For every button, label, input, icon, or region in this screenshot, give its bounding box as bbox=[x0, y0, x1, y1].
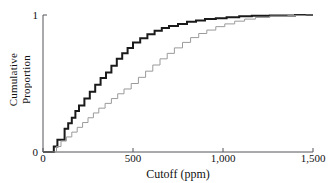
data-series-group bbox=[43, 15, 313, 152]
x-tick-label-1500: 1,500 bbox=[301, 152, 326, 164]
x-tick-label-1000: 1,000 bbox=[211, 152, 236, 164]
x-axis-ticks bbox=[43, 148, 313, 152]
x-tick-label-0: 0 bbox=[40, 152, 46, 164]
series-light-step-curve bbox=[43, 15, 313, 152]
y-axis-ticks bbox=[43, 15, 47, 152]
x-tick-label-500: 500 bbox=[125, 152, 142, 164]
axis-lines bbox=[43, 15, 313, 152]
plot-area bbox=[0, 0, 335, 183]
x-axis-title: Cutoff (ppm) bbox=[146, 167, 209, 182]
y-axis-title-line-1: Cumulative bbox=[7, 53, 19, 106]
y-tick-label-0: 0 bbox=[33, 146, 39, 158]
series-dark-step-curve bbox=[43, 15, 313, 152]
cumulative-proportion-chart: 1 0 0 500 1,000 1,500 Cutoff (ppm) Cumul… bbox=[0, 0, 335, 183]
y-axis-title-line-2: Proportion bbox=[20, 55, 32, 104]
y-axis-title: Cumulative Proportion bbox=[6, 20, 32, 140]
y-tick-label-1: 1 bbox=[33, 9, 39, 21]
